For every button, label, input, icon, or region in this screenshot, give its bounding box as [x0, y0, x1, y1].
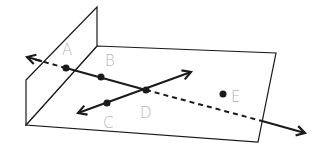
point-d — [143, 87, 150, 94]
line-ad-dashed-right — [146, 90, 262, 121]
point-a — [63, 65, 70, 72]
points — [63, 65, 227, 107]
line-cd — [78, 72, 191, 113]
line-ad-solid — [66, 68, 146, 90]
geometry-diagram: ABCDE — [0, 0, 323, 159]
point-e — [220, 91, 227, 98]
line-ad-left-arrow — [27, 57, 42, 61]
label-e: E — [231, 88, 240, 106]
line-ad-right-arrow — [262, 121, 305, 133]
label-b: B — [105, 52, 115, 70]
point-b — [98, 74, 105, 81]
point-c — [104, 100, 111, 107]
label-d: D — [140, 104, 152, 122]
label-c: C — [103, 114, 113, 132]
label-a: A — [62, 41, 72, 59]
